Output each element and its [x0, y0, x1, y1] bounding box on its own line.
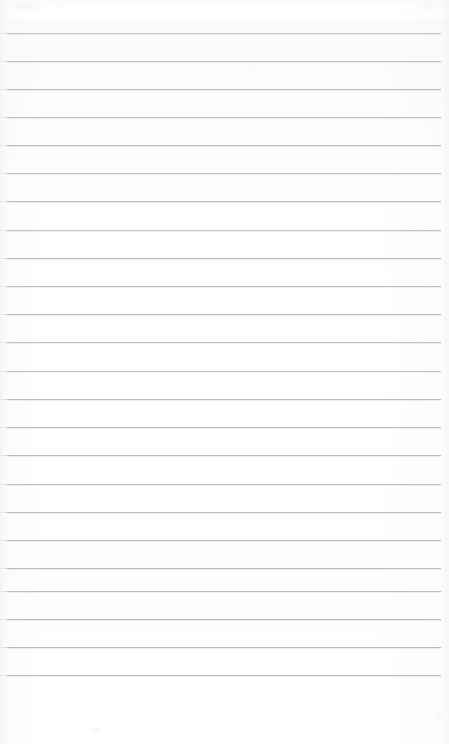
rule-line-left-nub — [0, 201, 7, 202]
rule-line-left-nub — [0, 619, 7, 620]
rule-line — [7, 173, 441, 174]
rule-line-left-nub — [0, 591, 7, 592]
rule-line — [7, 568, 441, 569]
scanned-page — [0, 0, 449, 744]
rule-line-left-nub — [0, 484, 7, 485]
rule-line-left-nub — [0, 371, 7, 372]
rule-line — [7, 145, 441, 146]
rule-line-left-nub — [0, 647, 7, 648]
rule-line — [7, 427, 441, 428]
rule-line-left-nub — [0, 173, 7, 174]
rule-line-left-nub — [0, 314, 7, 315]
rule-line — [7, 647, 441, 648]
rule-line-left-nub — [0, 117, 7, 118]
rule-line-left-nub — [0, 540, 7, 541]
rule-line — [7, 371, 441, 372]
rule-line-left-nub — [0, 455, 7, 456]
rule-line — [7, 258, 441, 259]
rule-line — [7, 61, 441, 62]
rule-line — [7, 286, 441, 287]
rule-line — [7, 455, 441, 456]
rule-line-left-nub — [0, 61, 7, 62]
rule-line-left-nub — [0, 145, 7, 146]
rule-line-left-nub — [0, 286, 7, 287]
rule-line — [7, 89, 441, 90]
ruled-lines-area — [0, 0, 449, 744]
rule-line-left-nub — [0, 33, 7, 34]
rule-line-left-nub — [0, 399, 7, 400]
rule-line — [7, 484, 441, 485]
rule-line — [7, 342, 441, 343]
rule-line — [7, 230, 441, 231]
rule-line-left-nub — [0, 568, 7, 569]
rule-line — [7, 33, 441, 34]
rule-line — [7, 591, 441, 592]
rule-line — [7, 675, 441, 676]
rule-line-left-nub — [0, 89, 7, 90]
rule-line-left-nub — [0, 258, 7, 259]
rule-line-left-nub — [0, 342, 7, 343]
rule-line-left-nub — [0, 427, 7, 428]
rule-line — [7, 399, 441, 400]
rule-line — [7, 619, 441, 620]
rule-line-left-nub — [0, 512, 7, 513]
rule-line-left-nub — [0, 675, 7, 676]
rule-line — [7, 201, 441, 202]
rule-line — [7, 117, 441, 118]
rule-line-left-nub — [0, 230, 7, 231]
rule-line — [7, 540, 441, 541]
rule-line — [7, 512, 441, 513]
rule-line — [7, 314, 441, 315]
